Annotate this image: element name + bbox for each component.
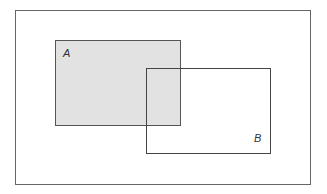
venn-diagram: A B <box>0 0 327 194</box>
set-a-label: A <box>62 47 70 59</box>
set-a-rectangle <box>56 41 181 126</box>
set-b-label: B <box>254 132 261 144</box>
